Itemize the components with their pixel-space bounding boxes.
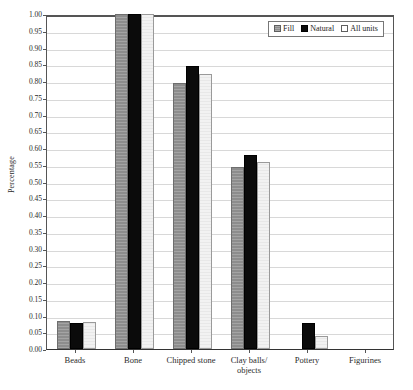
bar-fill bbox=[173, 83, 186, 349]
bar-allunits bbox=[199, 74, 212, 349]
y-axis-tick-mark bbox=[43, 199, 46, 200]
x-axis-tick-mark bbox=[249, 350, 250, 353]
y-axis-tick-label: 0.10 bbox=[8, 313, 42, 321]
y-axis-tick-mark bbox=[43, 266, 46, 267]
y-axis-tick-label: 0.25 bbox=[8, 262, 42, 270]
x-axis-tick-label: Pottery bbox=[278, 355, 336, 365]
y-axis-tick-label: 1.00 bbox=[8, 11, 42, 19]
y-axis-tick-mark bbox=[43, 300, 46, 301]
y-axis-tick-mark bbox=[43, 183, 46, 184]
y-axis-tick-label: 0.50 bbox=[8, 179, 42, 187]
y-axis-tick-mark bbox=[43, 82, 46, 83]
bar-fill bbox=[115, 14, 128, 349]
bar-fill bbox=[57, 321, 70, 349]
y-axis-tick-label: 0.85 bbox=[8, 61, 42, 69]
bar-natural bbox=[244, 155, 257, 349]
bars-layer bbox=[47, 16, 393, 349]
bar-allunits bbox=[315, 336, 328, 349]
y-axis-tick-label: 0.45 bbox=[8, 195, 42, 203]
bar-allunits bbox=[257, 162, 270, 349]
bar-fill bbox=[231, 167, 244, 349]
y-axis-tick-mark bbox=[43, 283, 46, 284]
x-axis-tick-label: Figurines bbox=[336, 355, 394, 365]
y-axis-tick-mark bbox=[43, 116, 46, 117]
y-axis-tick-mark bbox=[43, 15, 46, 16]
y-axis-tick-mark bbox=[43, 49, 46, 50]
y-axis-tick-mark bbox=[43, 350, 46, 351]
y-axis-tick-label: 0.30 bbox=[8, 246, 42, 254]
y-axis-tick-label: 0.70 bbox=[8, 112, 42, 120]
y-axis-tick-label: 0.75 bbox=[8, 95, 42, 103]
y-axis-tick-label: 0.35 bbox=[8, 229, 42, 237]
y-axis-tick-label: 0.60 bbox=[8, 145, 42, 153]
legend-label: Fill bbox=[283, 24, 294, 33]
y-axis-tick-mark bbox=[43, 166, 46, 167]
legend-item-fill: Fill bbox=[274, 24, 294, 33]
legend-swatch-icon bbox=[274, 25, 281, 32]
y-axis-tick-label: 0.00 bbox=[8, 346, 42, 354]
y-axis-tick-mark bbox=[43, 99, 46, 100]
legend-item-allunits: All units bbox=[341, 24, 378, 33]
x-axis-tick-mark bbox=[307, 350, 308, 353]
x-axis-tick-mark bbox=[365, 350, 366, 353]
bar-natural bbox=[128, 14, 141, 349]
x-axis-tick-mark bbox=[75, 350, 76, 353]
y-axis-tick-label: 0.40 bbox=[8, 212, 42, 220]
y-axis-tick-mark bbox=[43, 65, 46, 66]
x-axis-tick-label: Bone bbox=[104, 355, 162, 365]
y-axis-tick-label: 0.20 bbox=[8, 279, 42, 287]
y-axis-tick-label: 0.55 bbox=[8, 162, 42, 170]
bar-natural bbox=[302, 323, 315, 349]
y-axis-tick-mark bbox=[43, 250, 46, 251]
legend-item-natural: Natural bbox=[301, 24, 334, 33]
chart-legend: FillNaturalAll units bbox=[268, 21, 384, 37]
x-axis-tick-label: Chipped stone bbox=[162, 355, 220, 365]
bar-chart: Percentage 0.000.050.100.150.200.250.300… bbox=[0, 0, 413, 390]
y-axis-tick-mark bbox=[43, 317, 46, 318]
y-axis-tick-mark bbox=[43, 132, 46, 133]
y-axis-tick-mark bbox=[43, 333, 46, 334]
legend-swatch-icon bbox=[301, 25, 308, 32]
y-axis-tick-mark bbox=[43, 32, 46, 33]
legend-swatch-icon bbox=[341, 25, 348, 32]
y-axis-title: Percentage bbox=[7, 125, 16, 225]
y-axis-tick-label: 0.05 bbox=[8, 329, 42, 337]
bar-natural bbox=[186, 66, 199, 349]
y-axis-tick-label: 0.95 bbox=[8, 28, 42, 36]
y-axis-tick-mark bbox=[43, 149, 46, 150]
legend-label: All units bbox=[350, 24, 378, 33]
y-axis-tick-label: 0.65 bbox=[8, 128, 42, 136]
x-axis-tick-label: Beads bbox=[46, 355, 104, 365]
x-axis-tick-label: Clay balls/ objects bbox=[220, 355, 278, 375]
x-axis-tick-mark bbox=[133, 350, 134, 353]
bar-natural bbox=[70, 323, 83, 349]
x-axis-tick-mark bbox=[191, 350, 192, 353]
bar-allunits bbox=[83, 322, 96, 349]
y-axis-tick-label: 0.15 bbox=[8, 296, 42, 304]
y-axis-tick-mark bbox=[43, 216, 46, 217]
plot-area bbox=[46, 15, 394, 350]
legend-label: Natural bbox=[310, 24, 334, 33]
y-axis-tick-label: 0.90 bbox=[8, 45, 42, 53]
bar-allunits bbox=[141, 14, 154, 349]
y-axis-tick-label: 0.80 bbox=[8, 78, 42, 86]
y-axis-tick-mark bbox=[43, 233, 46, 234]
